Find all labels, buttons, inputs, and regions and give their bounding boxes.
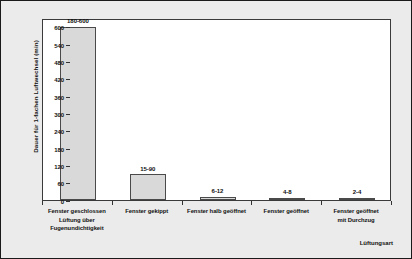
- bar-value-label: 6-12: [212, 188, 224, 194]
- x-axis-title: Lüftungsart: [360, 240, 393, 246]
- x-axis-tick-mark: [251, 201, 252, 205]
- x-axis-tick-mark: [391, 201, 392, 205]
- x-axis-category-label-line: Fenster geöffnet: [264, 207, 309, 216]
- y-axis-tick-mark: [66, 97, 70, 98]
- y-axis-tick-label: 360: [42, 95, 64, 101]
- x-axis-tick-mark: [321, 201, 322, 205]
- x-axis-category-label-line: Lüftung über: [48, 216, 106, 225]
- y-axis-tick-mark: [66, 114, 70, 115]
- plot-area: 180-60015-906-124-82-4: [42, 19, 391, 201]
- y-axis-tick-label: 60: [42, 181, 64, 187]
- y-axis-tick-label: 300: [42, 112, 64, 118]
- y-axis-tick-label: 600: [42, 25, 64, 31]
- bar: [339, 198, 375, 201]
- x-axis-category-label: Fenster geöffnet: [264, 207, 309, 216]
- bar-value-label: 4-8: [283, 189, 292, 195]
- y-axis-tick-label: 540: [42, 43, 64, 49]
- x-axis-category-label-line: Fenster gekippt: [125, 207, 168, 216]
- y-axis-tick-label: 420: [42, 77, 64, 83]
- plot-inner: 180-60015-906-124-82-4: [43, 20, 390, 200]
- bar: [130, 174, 166, 200]
- x-axis-tick-mark: [182, 201, 183, 205]
- y-axis-tick-label: 120: [42, 164, 64, 170]
- bar: [269, 198, 305, 201]
- x-axis-category-label: Fenster gekippt: [125, 207, 168, 216]
- y-axis-tick-mark: [66, 45, 70, 46]
- bar: [200, 197, 236, 200]
- x-axis-category-label-line: mit Durchzug: [333, 216, 378, 225]
- bar-value-label: 2-4: [353, 189, 362, 195]
- y-axis-tick-label: 180: [42, 147, 64, 153]
- y-axis-tick-label: 0: [42, 199, 64, 205]
- x-axis-category-label-line: Fenster halb geöffnet: [187, 207, 246, 216]
- x-axis-category-label: Fenster geschlossenLüftung überFugenundi…: [48, 207, 106, 233]
- y-axis-tick-mark: [66, 27, 70, 28]
- y-axis-title: Dauer für 1-fachen Luftwechsel (min): [32, 7, 39, 187]
- y-axis-tick-mark: [66, 131, 70, 132]
- x-axis-category-label-line: Fugenundichtigkeit: [48, 224, 106, 233]
- bar-value-label: 15-90: [140, 166, 155, 172]
- x-axis-category-label-line: Fenster geschlossen: [48, 207, 106, 216]
- bar-value-label: 180-600: [67, 18, 89, 24]
- x-axis-category-label: Fenster geöffnetmit Durchzug: [333, 207, 378, 224]
- x-axis-category-label-line: Fenster geöffnet: [333, 207, 378, 216]
- y-axis-tick-mark: [66, 201, 70, 202]
- y-axis-tick-mark: [66, 79, 70, 80]
- x-axis-tick-mark: [42, 201, 43, 205]
- y-axis-tick-mark: [66, 166, 70, 167]
- x-axis-category-label: Fenster halb geöffnet: [187, 207, 246, 216]
- y-axis-tick-label: 480: [42, 60, 64, 66]
- y-axis-tick-mark: [66, 183, 70, 184]
- x-axis-tick-mark: [112, 201, 113, 205]
- y-axis-tick-mark: [66, 62, 70, 63]
- y-axis-tick-mark: [66, 149, 70, 150]
- chart-screenshot: Dauer für 1-fachen Luftwechsel (min) 180…: [0, 0, 412, 259]
- y-axis-tick-label: 240: [42, 129, 64, 135]
